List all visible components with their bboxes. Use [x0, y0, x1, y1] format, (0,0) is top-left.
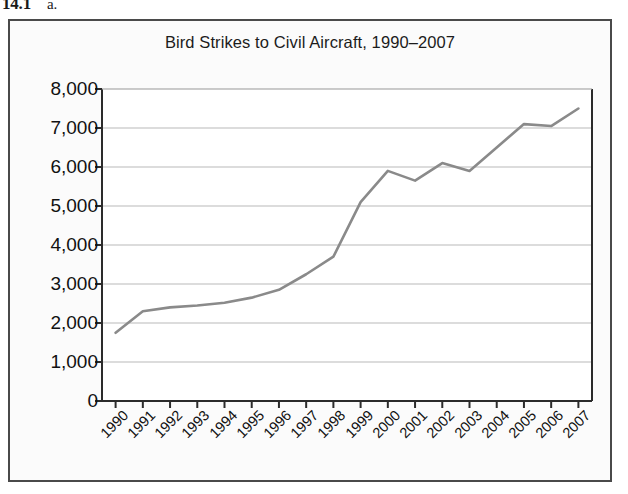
y-axis-tick-label: 5,000	[50, 195, 98, 217]
y-axis-tick-label: 0	[87, 390, 98, 412]
exercise-item-label: a.	[47, 0, 57, 13]
y-axis-tick-label: 1,000	[50, 351, 98, 373]
line-chart: 01,0002,0003,0004,0005,0006,0007,0008,00…	[10, 21, 614, 484]
y-axis-tick-label: 3,000	[50, 273, 98, 295]
y-axis-tick-label: 7,000	[50, 117, 98, 139]
y-axis-tick-label: 8,000	[50, 78, 98, 100]
y-axis-tick-label: 2,000	[50, 312, 98, 334]
section-number: 14.1	[2, 0, 31, 14]
figure-frame: Bird Strikes to Civil Aircraft, 1990–200…	[8, 19, 612, 482]
page-header: 14.1 a.	[0, 0, 202, 17]
y-axis-tick-label: 4,000	[50, 234, 98, 256]
y-axis-tick-label: 6,000	[50, 156, 98, 178]
